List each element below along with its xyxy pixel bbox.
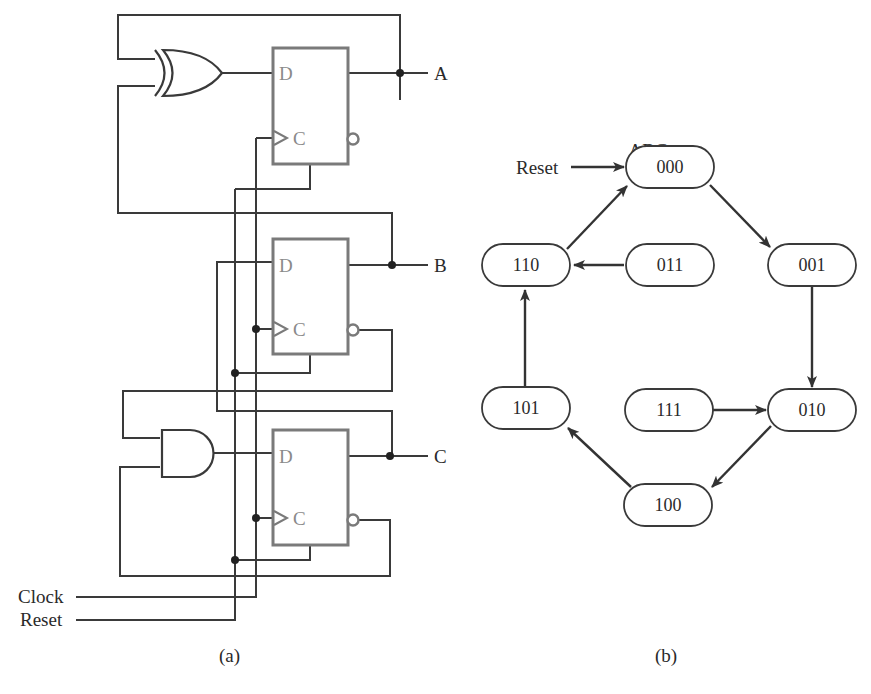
flip-flop-a: D C: [273, 48, 359, 164]
svg-text:100: 100: [655, 495, 682, 515]
output-a-label: A: [434, 63, 448, 84]
svg-text:111: 111: [656, 400, 682, 420]
output-c-label: C: [434, 446, 447, 467]
flip-flop-b: D C: [273, 239, 359, 354]
state-diagram: ABC Reset 000 001 010 10: [482, 140, 856, 667]
ff-c-d-label: D: [279, 446, 293, 467]
state-110: 110: [482, 244, 570, 286]
figure: D C A D C B D C C Clock Reset (a): [0, 0, 871, 694]
ff-a-c-label: C: [293, 128, 306, 149]
state-011: 011: [626, 244, 714, 286]
svg-text:110: 110: [513, 255, 539, 275]
svg-text:010: 010: [799, 400, 826, 420]
svg-text:001: 001: [799, 255, 826, 275]
ff-b-d-label: D: [279, 255, 293, 276]
state-100: 100: [624, 484, 712, 526]
clock-input-label: Clock: [18, 586, 64, 607]
circuit-diagram: D C A D C B D C C Clock Reset (a): [18, 15, 448, 667]
wires: [76, 15, 428, 620]
state-000: 000: [626, 146, 714, 188]
caption-b: (b): [655, 645, 677, 667]
svg-text:011: 011: [657, 255, 683, 275]
reset-input-label: Reset: [20, 609, 63, 630]
transition-arrows: [525, 167, 812, 487]
reset-label: Reset: [516, 157, 559, 178]
flip-flop-c: D C: [273, 430, 359, 545]
ff-a-d-label: D: [279, 63, 293, 84]
output-b-label: B: [434, 255, 447, 276]
ff-c-c-label: C: [293, 508, 306, 529]
and-gate: [162, 430, 214, 477]
svg-text:000: 000: [657, 157, 684, 177]
ff-b-c-label: C: [293, 319, 306, 340]
state-001: 001: [768, 244, 856, 286]
state-010: 010: [768, 389, 856, 431]
state-101: 101: [482, 387, 570, 429]
caption-a: (a): [219, 645, 240, 667]
state-111: 111: [625, 389, 713, 431]
svg-text:101: 101: [513, 398, 540, 418]
xor-gate: [155, 50, 222, 96]
